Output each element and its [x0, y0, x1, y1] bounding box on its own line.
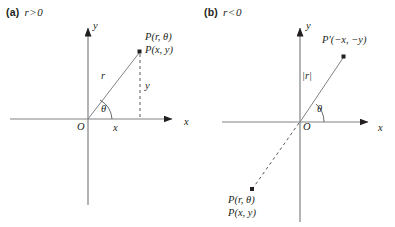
panel-a-condition-value: 0	[37, 6, 43, 18]
panel-a-x-axis-label: x	[184, 116, 189, 127]
panel-a-y-axis-label: y	[93, 20, 98, 31]
panel-b-condition-value: 0	[236, 6, 242, 18]
panel-a-origin-label: O	[77, 121, 85, 132]
panel-b-y-axis-label: y	[306, 20, 311, 31]
panel-b-point-polar-label: P(r, θ)	[228, 194, 255, 205]
panel-a-leg-horizontal-label: x	[113, 122, 118, 133]
panel-a-condition: r>0	[19, 6, 43, 18]
panel-a-leg-vertical-label: y	[145, 80, 150, 91]
panel-b-origin-label: O	[303, 121, 311, 132]
polar-coordinates-figure: (a)r>0 (b)r<0 y x P(r, θ) P(x, y) r y θ …	[0, 0, 395, 227]
panel-b-caption: (b)r<0	[204, 6, 242, 18]
panel-b-tag: (b)	[204, 6, 218, 18]
panel-b-reflected-point-label: P′(−x, −y)	[322, 34, 366, 45]
panel-b-point-cartesian-label: P(x, y)	[228, 207, 256, 218]
panel-a-point-polar-label: P(r, θ)	[145, 31, 172, 42]
panel-b-condition-op: <	[228, 6, 236, 18]
panel-b-angle-label: θ	[317, 103, 322, 114]
panel-a-point-marker	[138, 50, 142, 54]
panel-b-point-marker	[250, 187, 254, 191]
panel-b-x-axis-label: x	[378, 122, 383, 133]
panel-b-radius-label: |r|	[302, 70, 312, 81]
panel-a-caption: (a)r>0	[6, 6, 43, 18]
panel-b-graph	[222, 28, 368, 222]
panel-a-radius-line	[88, 53, 139, 119]
panel-b-reflected-point-marker	[342, 55, 346, 59]
panel-a-tag: (a)	[6, 6, 19, 18]
panel-b-dashed-ray	[253, 123, 299, 188]
panel-a-radius-label: r	[101, 70, 105, 81]
panel-a-angle-label: θ	[101, 103, 106, 114]
panel-a-point-cartesian-label: P(x, y)	[145, 44, 173, 55]
panel-b-condition-var: r	[223, 6, 227, 18]
panel-b-condition: r<0	[218, 6, 242, 18]
